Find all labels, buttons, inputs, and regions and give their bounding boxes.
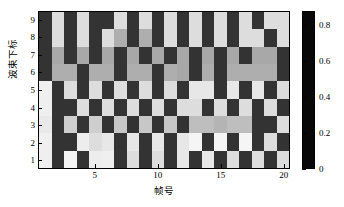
heatmap-cell <box>139 29 152 46</box>
heatmap-cell <box>127 151 140 168</box>
heatmap-cell <box>277 12 290 29</box>
heatmap-cell <box>164 151 177 168</box>
heatmap-cell <box>102 99 115 116</box>
heatmap-cell <box>189 99 202 116</box>
heatmap-cell <box>214 47 227 64</box>
heatmap-cell <box>252 133 265 150</box>
y-tick-mark <box>38 55 42 56</box>
heatmap-cell <box>64 47 77 64</box>
heatmap-cell <box>152 81 165 98</box>
heatmap-cell <box>89 64 102 81</box>
heatmap-cell <box>239 99 252 116</box>
heatmap-cell <box>114 47 127 64</box>
heatmap-plot-area[interactable] <box>38 11 290 169</box>
heatmap-cell <box>102 81 115 98</box>
heatmap-cell <box>252 99 265 116</box>
x-tick-label: 20 <box>279 171 288 180</box>
heatmap-cell <box>114 12 127 29</box>
heatmap-cell <box>177 81 190 98</box>
heatmap-cell <box>152 12 165 29</box>
x-tick-label: 10 <box>153 171 162 180</box>
heatmap-cell <box>127 133 140 150</box>
heatmap-cell <box>202 116 215 133</box>
heatmap-cell <box>77 99 90 116</box>
heatmap-cell <box>52 99 65 116</box>
heatmap-cell <box>89 99 102 116</box>
colorbar-tick-label: 0.4 <box>319 93 330 102</box>
x-tick-label: 15 <box>216 171 225 180</box>
heatmap-cell <box>152 47 165 64</box>
heatmap-cell <box>277 29 290 46</box>
y-tick-mark <box>38 72 42 73</box>
heatmap-cell <box>189 133 202 150</box>
heatmap-cell <box>64 29 77 46</box>
heatmap-cell <box>127 81 140 98</box>
heatmap-cell <box>214 81 227 98</box>
heatmap-cell <box>214 29 227 46</box>
x-axis-label: 帧号 <box>38 183 290 197</box>
heatmap-cell <box>277 99 290 116</box>
colorbar-tick-label: 0 <box>319 165 324 174</box>
heatmap-cell <box>127 64 140 81</box>
heatmap-cell <box>189 116 202 133</box>
heatmap-cell <box>164 29 177 46</box>
y-tick-mark <box>38 90 42 91</box>
heatmap-cell <box>64 64 77 81</box>
heatmap-cell <box>89 116 102 133</box>
heatmap-cell <box>177 151 190 168</box>
heatmap-cell <box>77 116 90 133</box>
heatmap-cell <box>277 116 290 133</box>
heatmap-cell <box>139 133 152 150</box>
heatmap-cell <box>252 29 265 46</box>
heatmap-cell <box>202 64 215 81</box>
heatmap-cell <box>64 81 77 98</box>
heatmap-cell <box>239 151 252 168</box>
heatmap-cell <box>77 47 90 64</box>
heatmap-cell <box>239 29 252 46</box>
heatmap-cell <box>227 133 240 150</box>
heatmap-cell <box>264 47 277 64</box>
heatmap-cell <box>77 29 90 46</box>
heatmap-cell <box>152 29 165 46</box>
heatmap-cell <box>152 64 165 81</box>
heatmap-cell <box>214 99 227 116</box>
heatmap-cell <box>227 81 240 98</box>
heatmap-cell <box>127 47 140 64</box>
heatmap-cell <box>264 29 277 46</box>
heatmap-cell <box>64 116 77 133</box>
colorbar-tick-label: 0.2 <box>319 129 330 138</box>
colorbar-gradient <box>303 12 314 168</box>
heatmap-cell <box>52 29 65 46</box>
colorbar-tick-mark <box>302 169 306 170</box>
heatmap-cell <box>227 151 240 168</box>
heatmap-cell <box>227 29 240 46</box>
heatmap-cell <box>202 151 215 168</box>
heatmap-cell <box>239 12 252 29</box>
heatmap-cell <box>114 151 127 168</box>
heatmap-cell <box>102 29 115 46</box>
heatmap-cell <box>64 99 77 116</box>
heatmap-cell <box>227 116 240 133</box>
y-tick-label: 7 <box>20 50 35 59</box>
heatmap-cell <box>252 12 265 29</box>
heatmap-cell <box>102 151 115 168</box>
colorbar-tick-mark <box>302 97 306 98</box>
colorbar[interactable] <box>302 11 315 169</box>
heatmap-cell <box>177 64 190 81</box>
heatmap-cell <box>239 64 252 81</box>
y-tick-label: 9 <box>20 15 35 24</box>
heatmap-cell <box>127 12 140 29</box>
heatmap-cell <box>189 81 202 98</box>
heatmap-cell <box>89 133 102 150</box>
heatmap-cell <box>77 64 90 81</box>
heatmap-cell <box>64 151 77 168</box>
heatmap-cell <box>264 81 277 98</box>
heatmap-cell <box>277 47 290 64</box>
y-tick-label: 6 <box>20 68 35 77</box>
heatmap-cell <box>52 151 65 168</box>
heatmap-grid <box>39 12 289 168</box>
heatmap-cell <box>277 133 290 150</box>
heatmap-cell <box>252 81 265 98</box>
heatmap-cell <box>127 29 140 46</box>
heatmap-cell <box>164 47 177 64</box>
